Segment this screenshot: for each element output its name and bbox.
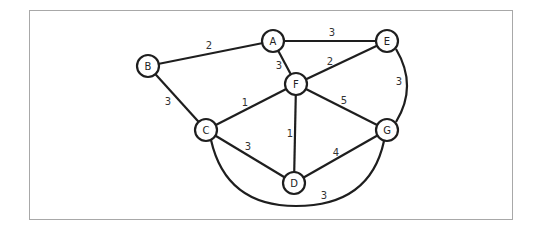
node-f: F	[285, 73, 307, 95]
edge-c-d	[206, 130, 294, 183]
node-label: B	[145, 61, 152, 72]
node-label: D	[290, 178, 298, 189]
edge-weight-f-g: 5	[341, 95, 347, 106]
edge-b-c	[148, 66, 206, 130]
node-e: E	[376, 30, 398, 52]
node-d: D	[283, 172, 305, 194]
node-label: G	[383, 125, 391, 136]
weights-layer: 233231153433	[165, 27, 402, 201]
edge-c-f	[206, 84, 296, 130]
edge-weight-f-e: 2	[327, 56, 333, 67]
node-b: B	[137, 55, 159, 77]
edge-weight-e-g: 3	[396, 76, 402, 87]
node-c: C	[195, 119, 217, 141]
edge-f-d	[294, 84, 296, 183]
node-a: A	[262, 30, 284, 52]
node-label: F	[293, 79, 299, 90]
edge-d-g	[294, 130, 387, 183]
edge-weight-f-d: 1	[287, 128, 293, 139]
edge-weight-d-g: 4	[333, 147, 339, 158]
node-label: A	[270, 36, 277, 47]
edge-weight-c-f: 1	[242, 97, 248, 108]
edge-weight-c-d: 3	[245, 141, 251, 152]
graph-canvas: 233231153433 ABCDEFG	[0, 0, 538, 233]
node-label: C	[203, 125, 210, 136]
edge-weight-b-a: 2	[206, 40, 212, 51]
edge-weight-b-c: 3	[165, 96, 171, 107]
edge-weight-c-g: 3	[321, 190, 327, 201]
edge-f-g	[296, 84, 387, 130]
node-label: E	[384, 36, 390, 47]
edge-f-e	[296, 41, 387, 84]
node-g: G	[376, 119, 398, 141]
edge-weight-a-f: 3	[276, 60, 282, 71]
edge-weight-a-e: 3	[329, 27, 335, 38]
